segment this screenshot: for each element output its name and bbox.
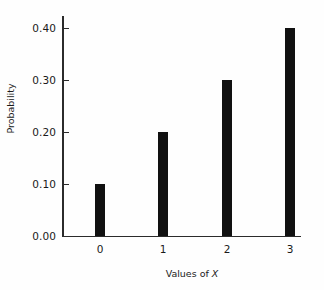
- x-tick-label-0: 0: [85, 243, 115, 255]
- y-tick-label-4: 0.40: [22, 22, 56, 34]
- y-tick-marks: [63, 29, 69, 237]
- x-tick-label-2: 2: [212, 243, 242, 255]
- x-axis-title-prefix: Values of: [166, 268, 209, 279]
- bar-3: [285, 28, 295, 236]
- bar-0: [95, 184, 105, 236]
- chart-figure: 0.00 0.10 0.20 0.30 0.40 0 1 2 3 Probabi…: [0, 0, 324, 290]
- x-tick-label-1: 1: [148, 243, 178, 255]
- y-tick-label-0: 0.00: [22, 230, 56, 242]
- y-tick-label-3: 0.30: [22, 74, 56, 86]
- bars-group: [95, 28, 295, 236]
- x-tick-label-3: 3: [275, 243, 305, 255]
- x-axis-title-variable: X: [212, 268, 219, 279]
- bar-1: [158, 132, 168, 236]
- x-axis-title: Values ofX: [82, 268, 302, 279]
- bar-2: [222, 80, 232, 236]
- y-axis-title: Probability: [5, 79, 16, 139]
- y-tick-label-1: 0.10: [22, 178, 56, 190]
- y-tick-label-2: 0.20: [22, 126, 56, 138]
